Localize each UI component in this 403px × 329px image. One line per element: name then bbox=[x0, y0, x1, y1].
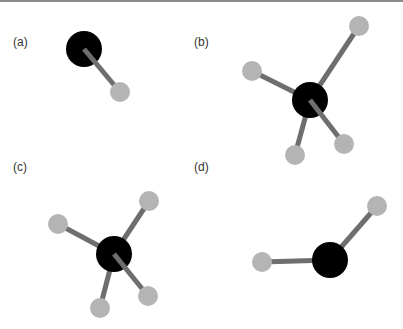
panel-d-molecule bbox=[252, 196, 387, 278]
panel-a-label: (a) bbox=[13, 35, 28, 49]
peripheral-atom bbox=[367, 196, 387, 216]
central-atom bbox=[312, 242, 348, 278]
peripheral-atom bbox=[90, 298, 110, 318]
panel-c-molecule bbox=[48, 191, 159, 318]
peripheral-atom bbox=[252, 252, 272, 272]
panel-d-label: (d) bbox=[194, 160, 209, 174]
peripheral-atom bbox=[139, 191, 159, 211]
peripheral-atom bbox=[242, 61, 262, 81]
panel-b-molecule bbox=[242, 16, 369, 165]
peripheral-atom bbox=[48, 214, 68, 234]
peripheral-atom bbox=[334, 134, 354, 154]
peripheral-atom bbox=[285, 145, 305, 165]
panel-a-molecule bbox=[66, 31, 130, 102]
peripheral-atom bbox=[110, 82, 130, 102]
peripheral-atom bbox=[349, 16, 369, 36]
peripheral-atom bbox=[138, 286, 158, 306]
panel-b-label: (b) bbox=[194, 35, 209, 49]
panel-c-label: (c) bbox=[13, 160, 27, 174]
